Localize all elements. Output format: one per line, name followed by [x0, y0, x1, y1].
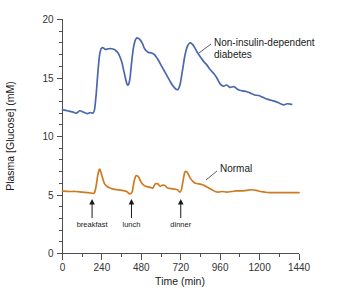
- y-tick-label: 0: [48, 248, 54, 259]
- y-tick-label: 5: [48, 190, 54, 201]
- y-axis-title: Plasma [Glucose] (mM): [4, 81, 16, 191]
- x-tick-label: 720: [172, 262, 189, 273]
- x-tick-label: 1200: [248, 262, 271, 273]
- x-tick-label: 480: [133, 262, 150, 273]
- glucose-tolerance-chart-figure: 05101520 024048072096012001440 breakfast…: [0, 0, 339, 295]
- x-tick-label: 0: [60, 262, 66, 273]
- y-tick-label: 10: [42, 131, 54, 142]
- series-label-diabetes-line1: Non-insulin-dependent: [214, 37, 315, 48]
- meal-label: breakfast: [77, 220, 109, 229]
- y-tick-label: 20: [42, 14, 54, 25]
- diabetes-label-leader-line: [199, 44, 211, 53]
- x-axis-tick-labels: 024048072096012001440: [60, 262, 311, 273]
- meal-label: lunch: [123, 220, 141, 229]
- x-tick-label: 1440: [288, 262, 311, 273]
- x-tick-label: 240: [94, 262, 111, 273]
- series-label-normal: Normal: [220, 163, 252, 174]
- x-tick-label: 960: [212, 262, 229, 273]
- series-line-normal: [63, 169, 300, 194]
- chart-plot-area: 05101520 024048072096012001440 breakfast…: [0, 0, 339, 295]
- meal-arrow-labels: breakfastlunchdinner: [77, 220, 192, 229]
- y-tick-label: 15: [42, 73, 54, 84]
- series-label-diabetes-line2: diabetes: [214, 49, 252, 60]
- x-axis-title: Time (min): [155, 275, 205, 287]
- meal-arrow-head: [178, 199, 184, 205]
- normal-label-leader-line: [206, 171, 217, 180]
- meal-arrow-markers: [89, 199, 183, 218]
- meal-label: dinner: [170, 220, 191, 229]
- y-axis-tick-labels: 05101520: [42, 14, 54, 259]
- x-axis-major-ticks: [63, 254, 300, 260]
- meal-arrow-head: [89, 199, 95, 205]
- series-line-diabetes: [63, 38, 292, 114]
- meal-arrow-head: [129, 199, 135, 205]
